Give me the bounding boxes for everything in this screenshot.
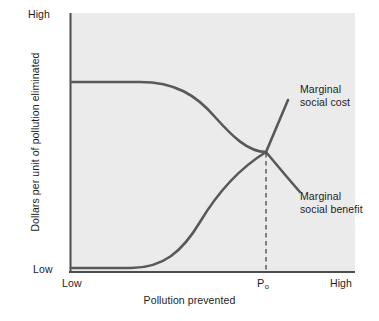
x-axis-tick-optimum: Po: [257, 277, 269, 289]
msb-label-line-2: social benefit: [300, 203, 363, 216]
plot-background: [70, 13, 355, 272]
chart-plot-svg: [0, 0, 379, 321]
optimum-label-subscript: o: [265, 282, 269, 291]
x-axis-tick-low: Low: [62, 277, 82, 289]
y-axis-title: Dollars per unit of pollution eliminated: [29, 37, 41, 247]
optimum-label-base: P: [257, 277, 264, 289]
msc-label-line-1: Marginal: [300, 83, 350, 96]
series-label-marginal-social-cost: Marginal social cost: [300, 83, 350, 108]
x-axis-tick-high: High: [330, 277, 352, 289]
y-axis-tick-low: Low: [33, 263, 53, 275]
msb-label-line-1: Marginal: [300, 190, 363, 203]
x-axis-title: Pollution prevented: [0, 294, 379, 306]
y-axis-tick-high: High: [28, 8, 50, 20]
chart-figure: High Low Low High Po Dollars per unit of…: [0, 0, 379, 321]
series-label-marginal-social-benefit: Marginal social benefit: [300, 190, 363, 215]
msc-label-line-2: social cost: [300, 96, 350, 109]
